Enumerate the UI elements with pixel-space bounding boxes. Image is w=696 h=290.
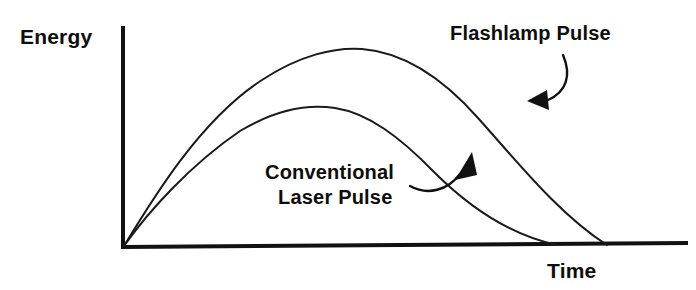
- flashlamp-pulse-label: Flashlamp Pulse: [450, 22, 611, 44]
- time-axis-line: [123, 243, 686, 247]
- energy-axis-label: Energy: [20, 25, 93, 48]
- time-axis-label: Time: [547, 259, 596, 282]
- flashlamp-pointer-arrowhead: [527, 90, 549, 110]
- flashlamp-pulse-curve: [124, 49, 607, 246]
- conventional-pulse-label-line2: Laser Pulse: [278, 186, 393, 208]
- pulse-energy-figure: Energy Time Flashlamp Pulse Conventional…: [0, 0, 696, 290]
- conventional-pointer-arrowhead: [455, 152, 477, 180]
- conventional-pulse-label-line1: Conventional: [265, 161, 394, 183]
- flashlamp-pointer-line: [548, 55, 567, 100]
- figure-canvas: Energy Time Flashlamp Pulse Conventional…: [0, 0, 696, 290]
